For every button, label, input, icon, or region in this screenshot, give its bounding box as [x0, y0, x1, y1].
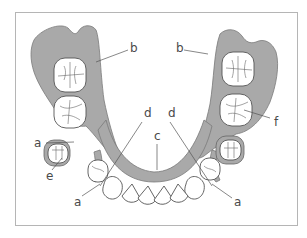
incisor-1 — [122, 184, 140, 202]
denture-diagram: b b d d c a e a f a — [0, 0, 307, 238]
label-a-left-upper: a — [34, 136, 41, 150]
left-premolar — [48, 144, 68, 163]
leader-b-left — [96, 50, 128, 62]
left-canine — [103, 177, 123, 200]
label-d-left: d — [144, 106, 152, 120]
label-b-right: b — [176, 41, 184, 55]
leader-a-left-lower — [82, 184, 100, 196]
label-b-left: b — [130, 41, 138, 55]
leader-a-right-lower — [212, 184, 232, 198]
label-c: c — [154, 129, 161, 143]
right-premolar — [220, 140, 241, 160]
incisor-2 — [138, 186, 156, 204]
label-a-right-lower: a — [234, 195, 241, 209]
label-f: f — [274, 115, 279, 129]
label-d-right: d — [168, 106, 176, 120]
label-e: e — [46, 169, 53, 183]
leader-b-right — [184, 50, 208, 54]
incisor-3 — [154, 186, 172, 204]
label-a-left-lower: a — [74, 195, 81, 209]
